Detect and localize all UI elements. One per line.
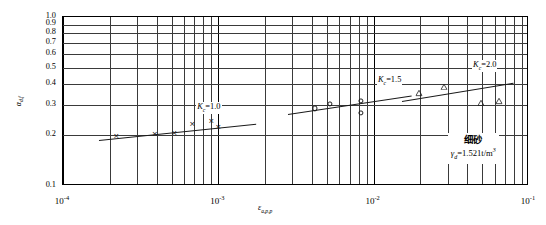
x-tick-mantissa: 10: [210, 196, 219, 206]
gridline-vertical: [420, 17, 421, 184]
gridline-vertical: [194, 17, 195, 184]
y-tick-label: 0.4: [30, 79, 56, 87]
y-axis-symbol: α: [14, 102, 23, 106]
series-label-kc15: Kc=1.5: [377, 75, 402, 88]
x-tick-label: 10-4: [42, 193, 82, 206]
data-point-cross: ×: [208, 116, 214, 126]
gridline-vertical: [522, 17, 523, 184]
y-tick-label: 0.5: [30, 63, 56, 71]
gridline-horizontal: [63, 17, 64, 18]
data-point-triangle: [415, 83, 422, 89]
trend-line: [99, 124, 256, 141]
gridline-horizontal: [63, 33, 527, 34]
y-tick-label: 0.1: [30, 181, 56, 189]
gridline-horizontal: [63, 54, 527, 55]
dry-density-annotation: γd=1.521t/m3: [451, 145, 496, 163]
series-label-value: =2.0: [481, 60, 496, 69]
gridline-vertical: [172, 17, 173, 184]
x-axis-subscript: a,p,p: [261, 208, 272, 214]
data-point-triangle: [441, 76, 448, 82]
data-point-triangle: [478, 92, 485, 98]
gridline-vertical: [327, 17, 328, 184]
x-tick-exponent: -2: [374, 194, 379, 201]
x-tick-label: 10-1: [508, 193, 546, 206]
data-point-cross: ×: [113, 131, 119, 141]
annotation-block: 细砂 γd=1.521t/m3: [448, 133, 499, 164]
gridline-horizontal: [63, 84, 527, 85]
y-axis-subscript: d,f: [18, 96, 24, 102]
gridline-vertical: [211, 17, 212, 184]
gridline-vertical: [514, 17, 515, 184]
gridline-horizontal: [63, 25, 527, 26]
figure-container: αd,f εa,p,p 1.00.90.80.70.60.50.40.30.20…: [0, 0, 546, 225]
y-tick-label: 0.2: [30, 130, 56, 138]
gridline-vertical: [63, 17, 64, 184]
gridline-vertical: [350, 17, 351, 184]
gridline-vertical: [218, 17, 219, 184]
y-tick-label: 0.6: [30, 49, 56, 57]
x-tick-mantissa: 10: [521, 196, 530, 206]
gridline-vertical: [184, 17, 185, 184]
series-label-value: =1.0: [205, 102, 220, 111]
data-point-cross: ×: [152, 129, 158, 139]
series-label-value: =1.5: [386, 75, 401, 84]
gridline-vertical: [339, 17, 340, 184]
x-axis-label: εa,p,p: [258, 203, 272, 214]
x-tick-exponent: -1: [530, 194, 535, 201]
gridline-vertical: [203, 17, 204, 184]
y-tick-label: 0.3: [30, 100, 56, 108]
gamma-exponent: 3: [493, 147, 496, 153]
x-tick-exponent: -4: [64, 194, 69, 201]
x-tick-mantissa: 10: [55, 196, 64, 206]
gridline-vertical: [312, 17, 313, 184]
gridline-vertical: [137, 17, 138, 184]
series-label-kc10: Kc=1.0: [196, 102, 221, 115]
x-tick-label: 10-3: [197, 193, 237, 206]
gridline-vertical: [157, 17, 158, 184]
data-point-cross: ×: [190, 119, 196, 129]
data-point-triangle: [495, 90, 502, 96]
gamma-value: =1.521t/m: [457, 148, 493, 158]
y-axis-label: αd,f: [14, 96, 25, 106]
gridline-vertical: [367, 17, 368, 184]
series-label-kc20: Kc=2.0: [472, 60, 497, 73]
data-point-circle: [359, 110, 364, 115]
gridline-vertical: [505, 17, 506, 184]
gridline-vertical: [110, 17, 111, 184]
plot-area: ×××××× Kc=1.0Kc=1.5Kc=2.0 细砂 γd=1.521t/m…: [62, 16, 528, 185]
gridline-vertical: [292, 17, 293, 184]
y-tick-label: 0.7: [30, 38, 56, 46]
data-point-cross: ×: [171, 128, 177, 138]
gridline-vertical: [265, 17, 266, 184]
soil-type-annotation: 细砂: [451, 134, 496, 145]
gridline-horizontal: [63, 105, 527, 106]
x-tick-label: 10-2: [353, 193, 393, 206]
data-point-cross: ×: [216, 123, 222, 133]
gridline-horizontal: [63, 68, 527, 69]
x-tick-exponent: -3: [219, 194, 224, 201]
gridline-horizontal: [63, 43, 527, 44]
y-tick-label: 0.8: [30, 28, 56, 36]
